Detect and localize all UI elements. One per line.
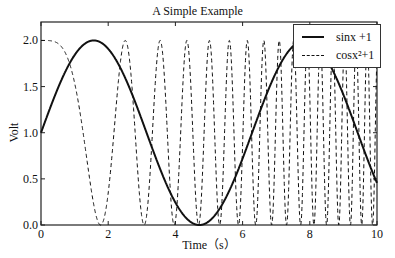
legend-label: sinx +1 — [336, 30, 372, 45]
y-axis-label: Volt — [7, 113, 22, 153]
legend-item-cos: cosx²+1 — [294, 46, 374, 64]
x-axis-label: Time（s） — [0, 235, 395, 253]
chart: 02468100.00.51.01.52.0 A Simple Example … — [0, 0, 395, 258]
dashed-line-icon — [302, 55, 324, 56]
solid-line-icon — [302, 36, 324, 38]
series-line-0 — [41, 40, 377, 225]
legend: sinx +1 cosx²+1 — [293, 24, 381, 68]
legend-item-sin: sinx +1 — [294, 28, 372, 46]
series-line-1 — [41, 40, 377, 225]
y-tick-label: 0.0 — [23, 218, 38, 232]
y-tick-label: 1.0 — [23, 126, 38, 140]
chart-title: A Simple Example — [0, 4, 395, 19]
y-tick-label: 2.0 — [23, 33, 38, 47]
y-tick-label: 0.5 — [23, 172, 38, 186]
y-tick-label: 1.5 — [23, 80, 38, 94]
legend-label: cosx²+1 — [336, 48, 374, 63]
